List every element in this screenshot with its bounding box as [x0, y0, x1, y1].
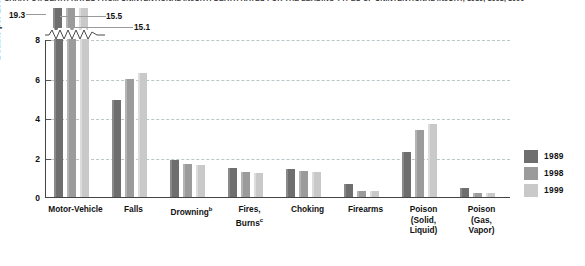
x-label-text-poison1: Poison — [410, 204, 438, 214]
y-tick-mark-4 — [46, 119, 51, 120]
bar-group-motor-vehicle — [54, 40, 99, 197]
bar-group-firearms — [344, 40, 389, 197]
x-label-text-drowning: Drowning — [171, 207, 209, 217]
chart-container: CHART 14. DEATH RATES FROM UNINTENTIONAL… — [0, 0, 585, 266]
bar-group-poison-gas-vapor — [460, 40, 505, 197]
y-tick-label-4: 4 — [18, 114, 40, 124]
legend-label-1998: 1998 — [544, 168, 564, 178]
plot-area — [45, 40, 510, 198]
x-axis-label-poison-gas-vapor: Poison (Gas, Vapor) — [439, 204, 524, 236]
y-tick-mark-2 — [46, 159, 51, 160]
bar-poison-solid-liquid-1989 — [402, 152, 411, 197]
legend-label-1999: 1999 — [544, 185, 564, 195]
bar-group-falls — [112, 40, 157, 197]
bar-group-choking — [286, 40, 331, 197]
bar-poison-gas-vapor-1998 — [473, 193, 482, 197]
bar-motor-vehicle-1999 — [80, 39, 89, 197]
x-label-text-gas: (Gas, — [471, 215, 492, 225]
x-label-text-choking: Choking — [291, 204, 324, 214]
callout-19-3: 19.3 — [9, 10, 25, 20]
bar-poison-solid-liquid-1998 — [415, 130, 424, 197]
callout-15-1: 15.1 — [134, 22, 150, 32]
leader-line-15-5 — [60, 16, 106, 17]
bar-poison-gas-vapor-1989 — [460, 188, 469, 197]
x-label-text-vapor: Vapor) — [469, 225, 495, 235]
bar-fires-burns-1998 — [241, 172, 250, 197]
x-label-text-burns: Burns — [236, 217, 260, 227]
bar-firearms-1999 — [370, 191, 379, 197]
y-tick-label-2: 2 — [18, 154, 40, 164]
bar-poison-solid-liquid-1999 — [428, 124, 437, 197]
bar-drowning-1989 — [170, 160, 179, 198]
bar-drowning-1998 — [183, 164, 192, 197]
legend-swatch-1989 — [524, 150, 538, 163]
y-tick-mark-8 — [46, 40, 51, 41]
x-label-text-liquid: Liquid) — [410, 225, 438, 235]
bar-group-poison-solid-liquid — [402, 40, 447, 197]
y-tick-label-8: 8 — [18, 35, 40, 45]
bar-falls-1989 — [112, 100, 121, 197]
bar-choking-1989 — [286, 169, 295, 197]
bar-falls-1999 — [138, 73, 147, 197]
x-label-text-fires: Fires, — [238, 204, 260, 214]
x-label-text-poison2: Poison — [468, 204, 496, 214]
legend-swatch-1999 — [524, 184, 538, 197]
y-axis-title: Deaths per 100,000 Population — [0, 0, 2, 60]
legend-label-1989: 1989 — [544, 151, 564, 161]
bar-group-fires-burns — [228, 40, 273, 197]
leader-line-19-3 — [26, 14, 46, 15]
callout-15-5: 15.5 — [106, 11, 122, 21]
bar-firearms-1989 — [344, 184, 353, 197]
bar-falls-1998 — [125, 79, 134, 198]
bar-poison-gas-vapor-1999 — [486, 193, 495, 197]
x-label-text-falls: Falls — [124, 204, 143, 214]
bar-motor-vehicle-1998 — [67, 39, 76, 197]
x-label-footnote-burns: c — [260, 217, 263, 223]
bar-choking-1999 — [312, 172, 321, 197]
chart-title: CHART 14. DEATH RATES FROM UNINTENTIONAL… — [4, 0, 579, 3]
x-label-text-firearms: Firearms — [348, 204, 383, 214]
bar-motor-vehicle-1989-overflow — [53, 8, 62, 30]
bar-firearms-1998 — [357, 191, 366, 197]
bar-fires-burns-1989 — [228, 168, 237, 197]
bar-fires-burns-1999 — [254, 173, 263, 197]
bar-motor-vehicle-1989 — [54, 39, 63, 197]
y-tick-label-6: 6 — [18, 75, 40, 85]
x-label-text-solid: (Solid, — [411, 215, 436, 225]
bar-group-drowning — [170, 40, 215, 197]
y-tick-label-0: 0 — [18, 193, 40, 203]
bar-choking-1998 — [299, 171, 308, 197]
bar-drowning-1999 — [196, 165, 205, 197]
legend-swatch-1998 — [524, 167, 538, 180]
y-tick-mark-6 — [46, 80, 51, 81]
